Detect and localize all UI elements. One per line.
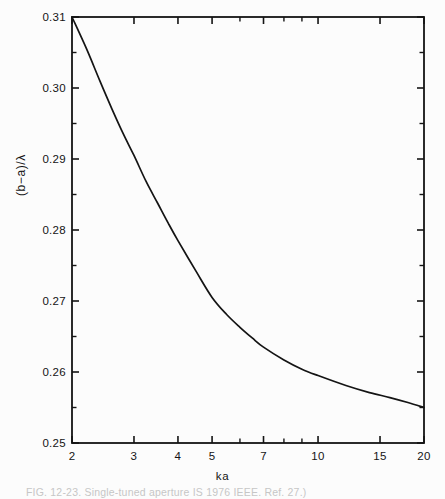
y-tick-label: 0.25 [28,437,66,449]
data-curve [72,17,424,408]
x-axis-title: ka [0,470,445,482]
figure-caption: FIG. 12-23. Single-tuned aperture IS 197… [0,487,445,499]
y-tick-label: 0.28 [28,224,66,236]
x-tick-label: 10 [311,450,324,462]
x-tick-label: 15 [373,450,386,462]
figure-container: 0.250.260.270.280.290.300.31 23457101520… [0,0,445,499]
y-tick-label: 0.29 [28,153,66,165]
y-axis-title: (b−a)/λ [14,154,28,196]
y-tick-label: 0.27 [28,295,66,307]
x-tick-label: 5 [209,450,216,462]
figure-caption-text: FIG. 12-23. Single-tuned aperture IS 197… [26,487,306,498]
x-tick-label: 7 [260,450,267,462]
y-tick-label: 0.26 [28,366,66,378]
y-tick-label: 0.30 [28,82,66,94]
axis-ticks [72,17,424,443]
line-chart [0,0,445,499]
x-tick-label: 3 [131,450,138,462]
x-tick-label: 20 [417,450,430,462]
plot-frame [72,17,424,443]
x-tick-label: 2 [69,450,76,462]
y-tick-label: 0.31 [28,11,66,23]
x-tick-label: 4 [175,450,182,462]
